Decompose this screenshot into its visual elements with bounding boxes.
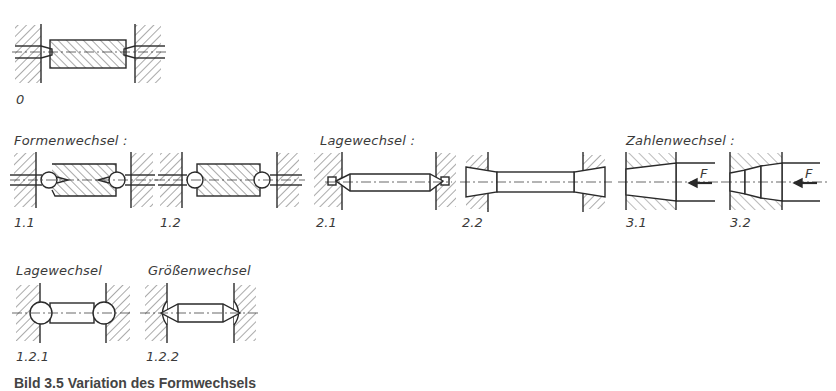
group-label-groessenwechsel: Größenwechsel (148, 263, 251, 278)
figure-3-2 (722, 152, 830, 210)
variant-label-1-2: 1.2 (160, 215, 181, 230)
force-label-3-2: F (805, 166, 812, 181)
figure-1-2 (155, 152, 305, 208)
figure-2-1 (314, 152, 456, 210)
variant-label-0: 0 (16, 92, 24, 107)
variant-label-3-1: 3.1 (626, 215, 647, 230)
group-label-lagewechsel-sub: Lagewechsel (16, 263, 102, 278)
figure-3-1 (618, 152, 722, 210)
figure-1-2-1 (12, 283, 130, 343)
figure-0 (12, 24, 168, 83)
group-label-formenwechsel: Formenwechsel : (14, 133, 128, 148)
variant-label-1-2-2: 1.2.2 (146, 349, 179, 364)
variant-label-3-2: 3.2 (730, 215, 751, 230)
variant-label-1-1: 1.1 (14, 215, 35, 230)
variant-label-2-1: 2.1 (316, 215, 337, 230)
figure-1-2-2 (140, 283, 258, 343)
variant-label-1-2-1: 1.2.1 (16, 349, 49, 364)
variant-label-2-2: 2.2 (462, 215, 483, 230)
figure-1-1 (10, 152, 158, 208)
group-label-lagewechsel: Lagewechsel : (320, 133, 415, 148)
force-label-3-1: F (700, 166, 707, 181)
figure-2-2 (460, 152, 612, 212)
group-label-zahlenwechsel: Zahlenwechsel : (626, 133, 735, 148)
figure-caption: Bild 3.5 Variation des Formwechsels (14, 375, 256, 391)
